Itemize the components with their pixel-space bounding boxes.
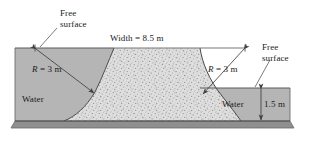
free-surface-label-left: Free surface bbox=[60, 8, 87, 29]
depth-label-right: 1.5 m bbox=[264, 99, 285, 109]
free-surface-right-line2: surface bbox=[262, 53, 289, 63]
leader-free-surface-left bbox=[40, 28, 57, 47]
water-label-right: Water bbox=[222, 99, 244, 109]
free-surface-left-line1: Free bbox=[60, 8, 76, 18]
ground-base bbox=[11, 121, 294, 128]
leader-free-surface-right bbox=[255, 60, 270, 87]
radius-label-right: R = 3 m bbox=[208, 64, 238, 74]
free-surface-label-right: Free surface bbox=[262, 42, 289, 63]
radius-label-left: R = 3 m bbox=[32, 64, 62, 74]
free-surface-right-line1: Free bbox=[262, 42, 278, 52]
water-label-left: Water bbox=[22, 94, 44, 104]
radius-left-value: = 3 m bbox=[38, 64, 62, 74]
width-label: Width = 8.5 m bbox=[110, 33, 164, 43]
figure-container: Free surface Width = 8.5 m R = 3 m R = 3… bbox=[0, 0, 318, 141]
radius-right-value: = 3 m bbox=[214, 64, 238, 74]
free-surface-left-line2: surface bbox=[60, 19, 87, 29]
